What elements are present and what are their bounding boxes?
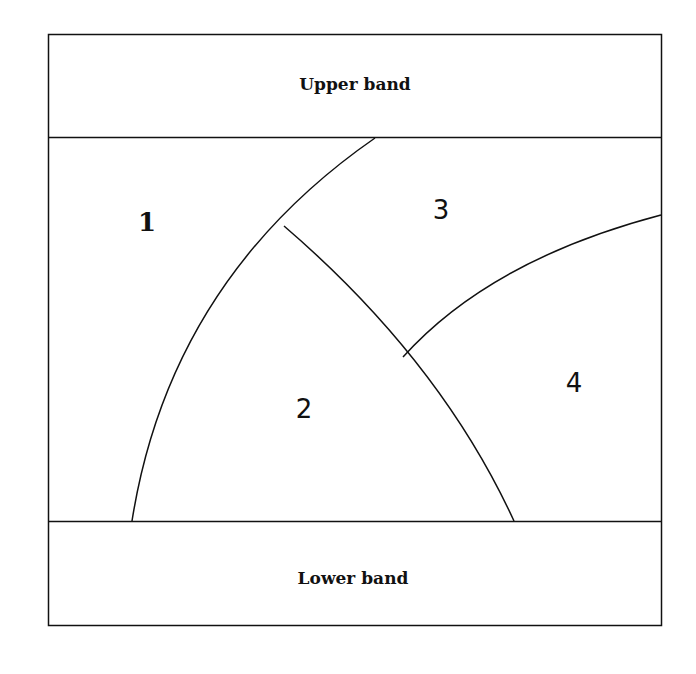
outer-frame: [49, 35, 662, 626]
region-3-label: 3: [433, 195, 450, 225]
diagram-canvas: Upper band Lower band 1 2 3 4: [0, 0, 696, 674]
lower-band-label: Lower band: [298, 568, 409, 588]
region-2-label: 2: [296, 394, 313, 424]
boundary-1: [132, 138, 375, 521]
region-1-label: 1: [138, 207, 156, 237]
region-4-label: 4: [566, 368, 583, 398]
upper-band-label: Upper band: [299, 74, 411, 94]
boundary-3-4: [403, 215, 661, 357]
boundary-2-3: [284, 226, 514, 521]
